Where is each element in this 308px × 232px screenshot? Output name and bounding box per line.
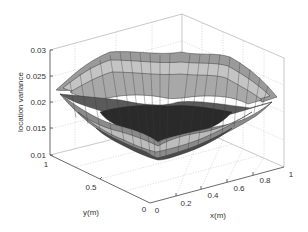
svg-text:0.01: 0.01 xyxy=(30,151,46,160)
svg-text:0.02: 0.02 xyxy=(30,98,46,107)
y-tick-labels: 1 0.5 0 xyxy=(44,160,147,214)
z-axis-label: location variance xyxy=(16,71,25,132)
svg-text:0.015: 0.015 xyxy=(26,124,47,133)
svg-text:0.4: 0.4 xyxy=(207,191,219,200)
svg-text:0.025: 0.025 xyxy=(26,72,47,81)
y-axis-label: y(m) xyxy=(83,208,99,217)
svg-text:0.5: 0.5 xyxy=(85,183,97,192)
svg-text:1: 1 xyxy=(44,160,49,169)
svg-text:0.03: 0.03 xyxy=(30,46,46,55)
svg-text:0.2: 0.2 xyxy=(180,199,192,208)
svg-text:0: 0 xyxy=(142,205,147,214)
svg-text:0.6: 0.6 xyxy=(233,184,245,193)
x-tick-labels: 0 0.2 0.4 0.6 0.8 1 xyxy=(155,170,294,215)
svg-text:0.8: 0.8 xyxy=(259,176,271,185)
x-axis-label: x(m) xyxy=(210,211,226,220)
svg-text:0: 0 xyxy=(155,206,160,215)
svg-text:1: 1 xyxy=(289,170,294,179)
surface-plot: 0.03 0.025 0.02 0.015 0.01 1 0.5 0 0 0.2… xyxy=(0,0,308,232)
z-tick-labels: 0.03 0.025 0.02 0.015 0.01 xyxy=(26,46,47,160)
surface xyxy=(56,52,277,160)
